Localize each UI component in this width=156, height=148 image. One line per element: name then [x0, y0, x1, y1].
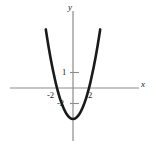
- x-tick-label-neg2: -2: [47, 91, 54, 100]
- y-tick-label-1: 1: [62, 68, 66, 77]
- x-axis-label: x: [141, 80, 145, 89]
- x-tick-label-pos2: 2: [88, 91, 92, 100]
- parabola-figure: y x -2 2 1 -2: [0, 0, 156, 148]
- y-tick-label-neg2: -2: [57, 99, 64, 108]
- y-axis-label: y: [68, 3, 72, 12]
- plot-canvas: [0, 0, 156, 148]
